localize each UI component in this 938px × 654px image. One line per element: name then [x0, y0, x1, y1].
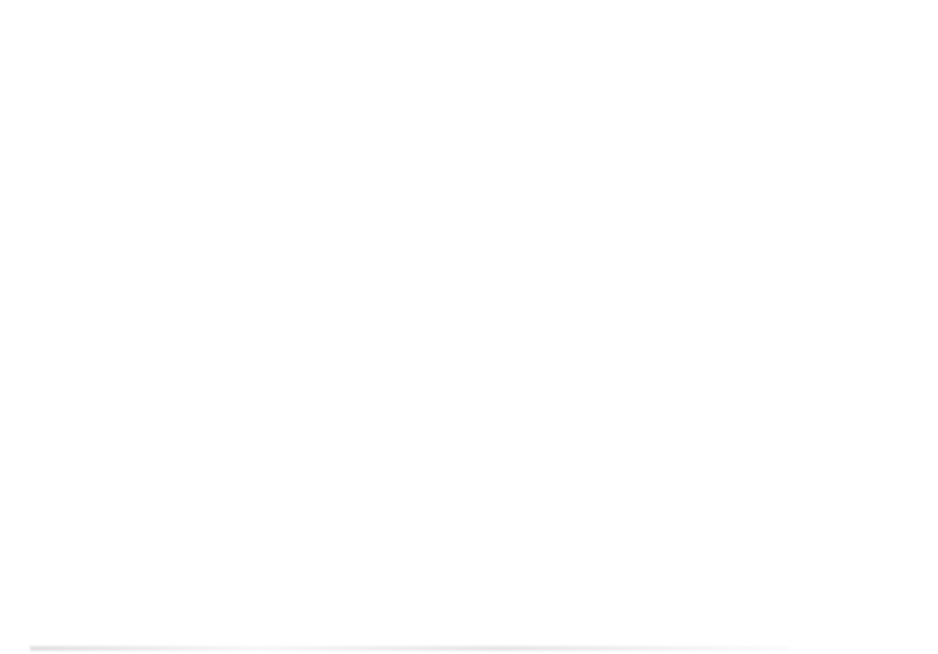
figure-9-3: [0, 0, 938, 654]
scan-artifact: [30, 646, 790, 651]
